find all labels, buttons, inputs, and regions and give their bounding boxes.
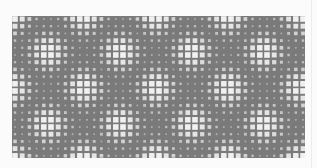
pattern-dot <box>266 155 268 157</box>
pattern-dot <box>172 39 175 42</box>
pattern-dot <box>215 54 217 56</box>
pattern-dot <box>50 83 52 85</box>
pattern-dot <box>64 111 67 114</box>
pattern-dot <box>64 89 68 93</box>
pattern-dot <box>122 155 124 157</box>
pattern-dot <box>259 97 261 99</box>
pattern-dot <box>280 89 284 93</box>
pattern-dot <box>273 104 276 107</box>
pattern-dot <box>21 140 24 143</box>
pattern-dot <box>92 75 96 79</box>
pattern-dot <box>179 140 182 143</box>
pattern-dot <box>150 104 154 108</box>
pattern-dot <box>86 54 88 56</box>
pattern-dot <box>273 140 276 143</box>
pattern-dot <box>85 74 90 79</box>
pattern-dot <box>165 68 168 71</box>
pattern-dot <box>144 112 146 114</box>
pattern-dot <box>49 132 54 137</box>
pattern-dot <box>194 155 196 157</box>
pattern-dot <box>128 125 133 130</box>
pattern-dot <box>128 132 132 136</box>
pattern-dot <box>49 38 54 43</box>
pattern-dot <box>49 60 54 65</box>
pattern-dot <box>136 39 139 42</box>
pattern-dot <box>41 60 46 65</box>
pattern-dot <box>142 153 147 158</box>
pattern-dot <box>200 45 205 50</box>
pattern-dot <box>258 104 261 107</box>
pattern-dot <box>34 45 39 50</box>
pattern-dot <box>34 53 39 58</box>
pattern-dot <box>64 133 67 136</box>
pattern-dot <box>287 47 289 49</box>
pattern-dot <box>106 53 111 58</box>
pattern-dot <box>251 111 255 115</box>
pattern-dot <box>208 97 211 100</box>
pattern-dot <box>228 153 234 158</box>
pattern-dot <box>85 24 90 29</box>
pattern-dot <box>228 16 234 22</box>
pattern-dot <box>259 83 261 85</box>
pattern-dot <box>222 68 225 71</box>
pattern-dot <box>178 125 183 130</box>
pattern-dot <box>193 110 198 115</box>
pattern-dot <box>136 125 140 129</box>
pattern-dot <box>77 88 83 94</box>
pattern-dot <box>258 32 261 35</box>
pattern-dot <box>208 82 211 85</box>
pattern-dot <box>28 97 31 100</box>
pattern-dot <box>286 17 291 22</box>
pattern-dot <box>194 75 196 77</box>
pattern-dot <box>57 155 59 157</box>
pattern-dot <box>71 75 75 79</box>
pattern-dot <box>272 39 276 43</box>
pattern-dot <box>295 39 297 41</box>
pattern-dot <box>257 117 263 123</box>
pattern-dot <box>165 133 167 135</box>
pattern-dot <box>201 25 203 27</box>
pattern-dot <box>93 112 95 114</box>
pattern-dot <box>244 61 247 64</box>
pattern-dot <box>286 153 291 158</box>
pattern-dot <box>300 88 305 94</box>
pattern-dot <box>70 89 75 94</box>
pattern-dot <box>300 16 305 22</box>
pattern-dot <box>287 75 291 79</box>
pattern-dot <box>28 147 31 150</box>
pattern-dot <box>28 154 32 158</box>
pattern-dot <box>28 53 32 57</box>
pattern-dot <box>121 140 125 144</box>
pattern-dot <box>302 54 304 56</box>
pattern-dot <box>86 133 88 135</box>
pattern-dot <box>221 81 227 87</box>
pattern-dot <box>121 32 125 36</box>
pattern-dot <box>13 24 18 29</box>
pattern-dot <box>221 74 226 79</box>
pattern-dot <box>122 18 124 20</box>
pattern-dot <box>173 69 175 71</box>
pattern-dot <box>302 119 304 121</box>
pattern-dot <box>70 81 75 86</box>
pattern-dot <box>265 32 269 36</box>
pattern-dot <box>273 18 275 20</box>
pattern-dot <box>35 32 38 35</box>
pattern-dot <box>178 117 183 122</box>
pattern-dot <box>187 155 189 157</box>
pattern-dot <box>86 126 88 128</box>
pattern-dot <box>223 47 225 49</box>
pattern-dot <box>121 104 125 108</box>
pattern-dot <box>100 133 103 136</box>
pattern-dot <box>172 32 174 34</box>
pattern-dot <box>85 96 90 101</box>
pattern-dot <box>136 46 140 50</box>
pattern-dot <box>56 111 60 115</box>
pattern-dot <box>100 82 104 86</box>
pattern-dot <box>158 126 160 128</box>
pattern-dot <box>230 61 232 63</box>
pattern-dot <box>208 75 211 78</box>
pattern-dot <box>121 132 126 137</box>
pattern-dot <box>266 75 268 77</box>
pattern-dot <box>143 32 146 35</box>
pattern-dot <box>264 117 270 123</box>
